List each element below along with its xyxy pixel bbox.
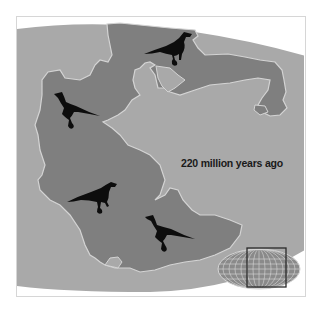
pangaea-map	[0, 0, 322, 311]
era-caption: 220 million years ago	[181, 157, 283, 169]
